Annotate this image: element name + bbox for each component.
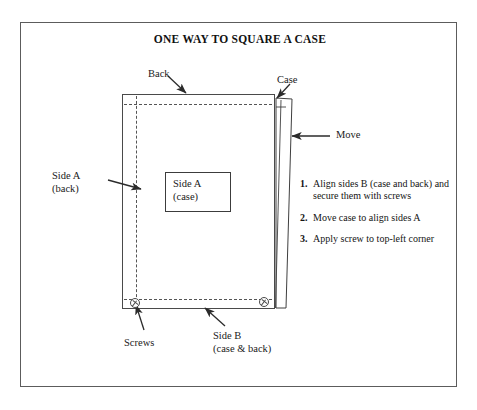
label-side-b-line2: (case & back) [213,343,308,356]
step-text: Align sides B (case and back) and secure… [313,178,450,203]
side-a-case-line2: (case) [173,190,230,203]
step-number: 3. [300,233,313,245]
step-text: Apply screw to top-left corner [313,233,450,245]
case-bottom-edge-dashed-line [124,299,272,300]
label-side-b: Side B (case & back) [213,330,308,355]
screw-bottom-left-icon [130,298,140,308]
label-side-b-line1: Side B [213,330,308,343]
case-top-edge-dashed-line [124,104,272,105]
label-back: Back [148,68,170,81]
label-side-a-back-line1: Side A [52,170,112,183]
label-move: Move [336,129,361,142]
label-screws: Screws [124,337,154,350]
instruction-list: 1. Align sides B (case and back) and sec… [300,178,450,255]
instruction-step: 3. Apply screw to top-left corner [300,233,450,245]
step-text: Move case to align sides A [313,212,450,224]
side-a-case-line1: Side A [173,177,230,190]
case-left-edge-dashed-line [136,96,137,307]
label-side-a-back-line2: (back) [52,183,112,196]
figure-title: ONE WAY TO SQUARE A CASE [60,33,420,45]
instruction-step: 2. Move case to align sides A [300,212,450,224]
side-a-case-callout: Side A (case) [165,172,231,212]
step-number: 2. [300,212,313,224]
square-a-case-figure: ONE WAY TO SQUARE A CASE Side A (case) [0,0,477,410]
step-number: 1. [300,178,313,203]
label-case: Case [277,74,297,87]
label-side-a-back: Side A (back) [52,170,112,195]
instruction-step: 1. Align sides B (case and back) and sec… [300,178,450,203]
screw-bottom-right-icon [259,297,269,307]
